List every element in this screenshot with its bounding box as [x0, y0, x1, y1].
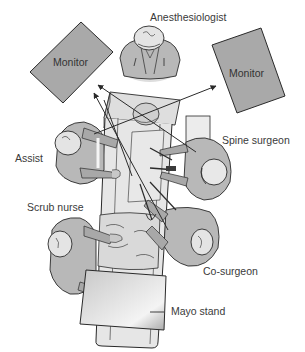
monitor-left-label: Monitor — [53, 57, 88, 68]
monitor-right-label: Monitor — [229, 68, 264, 79]
diagram-canvas — [0, 0, 305, 352]
mayo-stand — [80, 270, 166, 330]
mayo-stand-label: Mayo stand — [171, 306, 225, 317]
assist-label: Assist — [15, 153, 43, 164]
anesthesiologist-figure — [120, 26, 180, 82]
or-layout-diagram: Monitor Monitor Anesthesiologist Assist … — [0, 0, 305, 352]
spine-surgeon-label: Spine surgeon — [222, 135, 290, 146]
anesthesiologist-label: Anesthesiologist — [150, 12, 226, 23]
co-surgeon-label: Co-surgeon — [203, 266, 258, 277]
scrub-nurse-label: Scrub nurse — [27, 202, 84, 213]
